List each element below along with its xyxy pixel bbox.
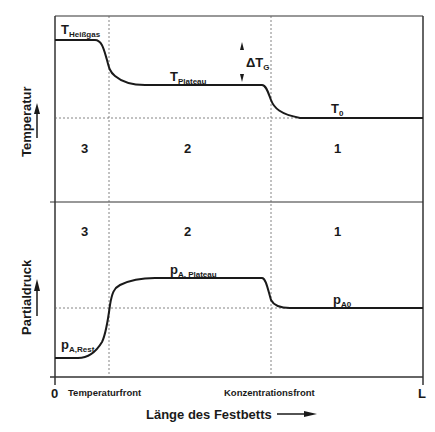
x-end-label: L — [418, 386, 426, 401]
t-zero-label: T0 — [331, 101, 344, 118]
p-zero-label: pA0 — [333, 292, 352, 309]
y-arrow-temperature-icon — [34, 103, 40, 138]
zone-3-bottom: 3 — [81, 224, 88, 239]
t-hot-label: THeißgas — [61, 22, 101, 39]
partial-pressure-curve — [55, 278, 423, 358]
p-plateau-label: pA, Plateau — [170, 262, 217, 279]
x-arrow-icon — [277, 411, 317, 417]
x-origin-label: 0 — [51, 386, 58, 401]
temperature-curve — [55, 40, 423, 118]
y-arrow-partial-pressure-icon — [34, 279, 40, 316]
temperature-front-label: Temperaturfront — [68, 387, 142, 398]
zone-1-bottom: 1 — [334, 224, 341, 239]
y-label-temperature: Temperatur — [19, 86, 34, 157]
bed-profile-diagram: THeißgas TPlateau ΔTG T0 3 2 1 Temperatu… — [0, 0, 435, 432]
p-rest-label: pA,Rest — [61, 337, 95, 354]
t-plateau-label: TPlateau — [170, 69, 207, 86]
zone-1-top: 1 — [334, 141, 341, 156]
y-label-partial-pressure: Partialdruck — [19, 259, 34, 335]
zone-3-top: 3 — [81, 141, 88, 156]
arrow-down-icon — [240, 74, 244, 82]
delta-t-label: ΔTG — [246, 55, 270, 72]
zone-2-top: 2 — [184, 141, 191, 156]
concentration-front-label: Konzentrationsfront — [224, 387, 316, 398]
zone-2-bottom: 2 — [184, 224, 191, 239]
x-axis-title: Länge des Festbetts — [146, 407, 272, 422]
arrow-up-icon — [240, 42, 244, 50]
delta-t-arrows — [240, 42, 244, 82]
